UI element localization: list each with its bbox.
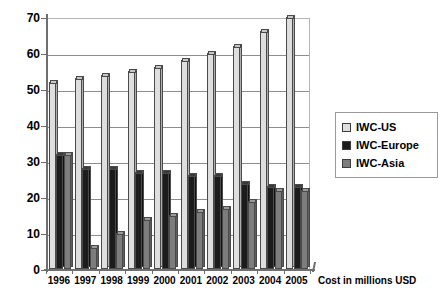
bar-top-cap [163, 170, 170, 174]
bar[interactable] [64, 154, 71, 269]
bar[interactable] [101, 75, 108, 269]
x-tick-mark [72, 270, 73, 274]
bar-group [260, 17, 283, 269]
bar-top-cap [91, 245, 98, 249]
bar[interactable] [128, 71, 135, 269]
bar-face [82, 168, 89, 269]
bar-side [123, 231, 125, 267]
legend-label: IWC-Europe [356, 139, 419, 151]
bar[interactable] [49, 82, 56, 269]
bar-top-cap [261, 29, 268, 33]
legend-swatch-icon [342, 141, 351, 150]
bar-group [233, 17, 256, 269]
x-tick-label: 2005 [277, 275, 317, 286]
x-tick-mark [46, 270, 47, 274]
bar-face [90, 247, 97, 269]
legend-label: IWC-US [356, 121, 396, 133]
y-axis-labels: 010203040506070 [6, 0, 40, 295]
bar-face [128, 71, 135, 269]
x-tick-mark [125, 270, 126, 274]
bar-top-cap [234, 44, 241, 48]
bar-face [64, 154, 71, 269]
y-tick-label: 20 [27, 193, 40, 203]
bar-top-cap [170, 213, 177, 217]
bar-top-cap [76, 76, 83, 80]
bar[interactable] [241, 183, 248, 269]
bar[interactable] [143, 219, 150, 269]
bar-face [267, 186, 274, 269]
bar[interactable] [82, 168, 89, 269]
y-tick-label: 10 [27, 229, 40, 239]
bar-group [101, 17, 124, 269]
bar[interactable] [260, 31, 267, 269]
bar-top-cap [50, 80, 57, 84]
bar-group [207, 17, 230, 269]
legend-item[interactable]: IWC-Asia [342, 154, 433, 172]
bar-face [116, 233, 123, 269]
bar-face [181, 60, 188, 269]
bar[interactable] [301, 190, 308, 269]
bar-face [294, 186, 301, 269]
bar-top-cap [110, 166, 117, 170]
bar-side [308, 188, 310, 267]
bar-face [222, 208, 229, 269]
x-tick-mark [152, 270, 153, 274]
bar-face [275, 190, 282, 269]
bar-side [282, 188, 284, 267]
y-tick-label: 70 [27, 13, 40, 23]
x-tick-mark [310, 270, 311, 274]
y-axis-line [46, 14, 48, 272]
bar[interactable] [56, 154, 63, 269]
bar-face [56, 154, 63, 269]
bar-top-cap [182, 58, 189, 62]
bar-top-cap [129, 69, 136, 73]
bar-top-cap [287, 15, 294, 19]
bar-top-cap [144, 217, 151, 221]
bar-face [188, 175, 195, 269]
x-tick-mark [204, 270, 205, 274]
bar[interactable] [214, 175, 221, 269]
bar[interactable] [275, 190, 282, 269]
bar[interactable] [109, 168, 116, 269]
bar-face [143, 219, 150, 269]
bar[interactable] [154, 67, 161, 269]
bar[interactable] [116, 233, 123, 269]
bar[interactable] [162, 172, 169, 269]
legend-swatch-icon [342, 159, 351, 168]
bar[interactable] [75, 78, 82, 269]
bar-top-cap [268, 184, 275, 188]
bar[interactable] [188, 175, 195, 269]
bar-group [154, 17, 177, 269]
bar-face [248, 201, 255, 269]
bar-side [150, 217, 152, 267]
bar-face [260, 31, 267, 269]
bar-face [162, 172, 169, 269]
bar[interactable] [181, 60, 188, 269]
bar[interactable] [233, 46, 240, 269]
legend-swatch-icon [342, 123, 351, 132]
bar[interactable] [267, 186, 274, 269]
x-axis-line [44, 269, 315, 271]
bar-face [196, 211, 203, 269]
bar[interactable] [248, 201, 255, 269]
bar-group [181, 17, 204, 269]
bar[interactable] [135, 172, 142, 269]
bar-side [203, 209, 205, 267]
bar-top-cap [65, 152, 72, 156]
bar-side [255, 199, 257, 267]
bar-face [286, 17, 293, 269]
bar[interactable] [196, 211, 203, 269]
bar[interactable] [222, 208, 229, 269]
legend-item[interactable]: IWC-Europe [342, 136, 433, 154]
legend-item[interactable]: IWC-US [342, 118, 433, 136]
x-tick-mark [178, 270, 179, 274]
bar-face [101, 75, 108, 269]
bar[interactable] [90, 247, 97, 269]
bar[interactable] [169, 215, 176, 269]
x-tick-mark [231, 270, 232, 274]
bar-side [71, 152, 73, 267]
bar[interactable] [207, 53, 214, 269]
bar[interactable] [294, 186, 301, 269]
bar[interactable] [286, 17, 293, 269]
y-tick-label: 40 [27, 121, 40, 131]
